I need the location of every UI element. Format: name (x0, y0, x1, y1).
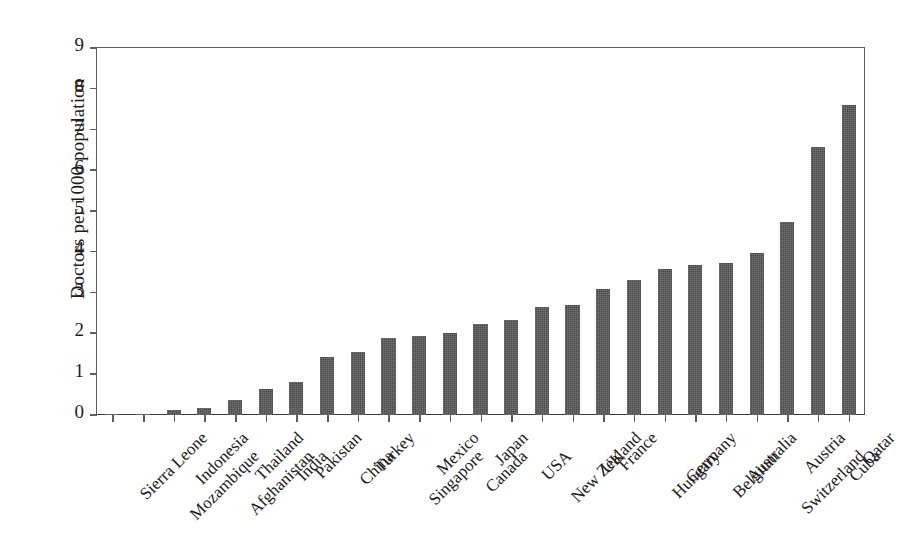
bar (535, 307, 549, 415)
bar (412, 336, 426, 415)
x-tick-mark (634, 415, 636, 422)
y-tick-label: 9 (56, 35, 84, 54)
x-tick-mark (726, 415, 728, 422)
bar (627, 280, 641, 415)
y-tick-label: 6 (56, 157, 84, 176)
bar (565, 305, 579, 415)
y-tick-label: 5 (56, 198, 84, 217)
y-tick-label: 7 (56, 117, 84, 136)
bar (289, 382, 303, 415)
y-tick-label: 3 (56, 280, 84, 299)
x-tick-mark (388, 415, 390, 422)
x-tick-mark (849, 415, 851, 422)
x-tick-mark (266, 415, 268, 422)
y-tick-label: 2 (56, 320, 84, 339)
x-tick-mark (327, 415, 329, 422)
x-axis-label: USA (539, 447, 575, 483)
x-axis-labels: Sierra LeoneMozambiqueIndonesiaAfghanist… (97, 424, 864, 544)
bar (688, 265, 702, 415)
bar (197, 408, 211, 415)
y-tick-label: 8 (56, 76, 84, 95)
bar (351, 352, 365, 415)
x-tick-mark (787, 415, 789, 422)
y-tick-label: 1 (56, 361, 84, 380)
y-tick-label: 0 (56, 402, 84, 421)
bar (780, 222, 794, 415)
bar (381, 338, 395, 415)
x-tick-mark (296, 415, 298, 422)
bar (320, 357, 334, 415)
x-tick-mark (143, 415, 145, 422)
x-axis-label: Qatar (859, 429, 898, 468)
bar (658, 269, 672, 415)
bar (473, 324, 487, 415)
x-tick-mark (204, 415, 206, 422)
bar (259, 389, 273, 416)
x-axis-ticks (97, 415, 864, 423)
x-tick-mark (603, 415, 605, 422)
x-axis-label: Australia (743, 429, 799, 485)
bar (842, 105, 856, 415)
doctors-per-1000-bar-chart: Doctors per 1000 population 0123456789 S… (0, 0, 915, 544)
x-tick-mark (818, 415, 820, 422)
bar (596, 289, 610, 415)
y-tick-label: 4 (56, 239, 84, 258)
x-tick-mark (235, 415, 237, 422)
x-tick-mark (695, 415, 697, 422)
x-tick-mark (573, 415, 575, 422)
bar (443, 333, 457, 415)
x-tick-mark (757, 415, 759, 422)
bar (750, 253, 764, 415)
x-tick-mark (481, 415, 483, 422)
bars-container (97, 48, 864, 415)
x-tick-mark (174, 415, 176, 422)
x-tick-mark (419, 415, 421, 422)
bar (719, 263, 733, 415)
x-tick-mark (511, 415, 513, 422)
bar (811, 147, 825, 415)
x-axis-label: Germany (682, 429, 739, 486)
x-tick-mark (542, 415, 544, 422)
x-tick-mark (112, 415, 114, 422)
bar (504, 320, 518, 415)
x-tick-mark (665, 415, 667, 422)
bar (228, 400, 242, 415)
x-tick-mark (450, 415, 452, 422)
x-tick-mark (358, 415, 360, 422)
